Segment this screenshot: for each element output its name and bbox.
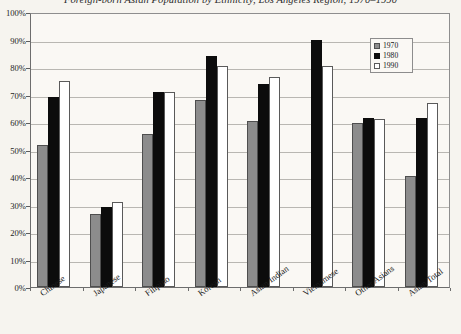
bar-other-asians-1990 — [374, 119, 385, 287]
bar-asian-indian-1970 — [247, 121, 258, 287]
bar-vietnamese-1990 — [322, 66, 333, 287]
legend-item-1970: 1970 — [374, 41, 409, 50]
y-axis-tick-label: 70% — [10, 91, 26, 101]
bar-asian-total-1980 — [416, 118, 427, 287]
y-axis-tick-label: 80% — [10, 63, 26, 73]
bar-asian-indian-1980 — [258, 84, 269, 288]
y-axis: 100%90%80%70%60%50%40%30%20%10%0% — [0, 13, 30, 288]
legend-label-1980: 1980 — [383, 52, 398, 60]
bar-korean-1990 — [217, 66, 228, 287]
y-axis-tick-label: 30% — [10, 201, 26, 211]
legend-swatch-1990 — [374, 63, 380, 69]
bar-chinese-1980 — [48, 97, 59, 287]
y-axis-tick-label: 90% — [10, 36, 26, 46]
bar-group — [189, 14, 242, 287]
x-axis-labels: ChineseJapaneseFilipinoKoreanAsian India… — [30, 290, 450, 334]
bar-other-asians-1970 — [352, 123, 363, 287]
bar-group — [294, 14, 347, 287]
x-axis-tick-mark — [293, 288, 294, 291]
x-axis-tick-mark — [83, 288, 84, 291]
bar-filipino-1990 — [164, 92, 175, 287]
bar-chinese-1990 — [59, 81, 70, 287]
bar-other-asians-1980 — [363, 118, 374, 287]
bar-korean-1970 — [195, 100, 206, 287]
x-axis-tick-mark — [398, 288, 399, 291]
chart-legend: 197019801990 — [370, 38, 413, 73]
legend-item-1980: 1980 — [374, 51, 409, 60]
y-axis-tick-label: 50% — [10, 146, 26, 156]
bar-group — [241, 14, 294, 287]
y-axis-tick-label: 0% — [15, 283, 26, 293]
bar-asian-total-1970 — [405, 176, 416, 287]
x-axis-tick-mark — [135, 288, 136, 291]
x-axis-tick-mark — [188, 288, 189, 291]
chart-container: Foreign-born Asian Population by Ethnici… — [0, 0, 461, 334]
x-axis-tick-mark — [450, 288, 451, 291]
legend-swatch-1970 — [374, 43, 380, 49]
x-axis-tick-mark — [345, 288, 346, 291]
legend-item-1990: 1990 — [374, 61, 409, 70]
y-axis-tick-label: 100% — [6, 8, 26, 18]
y-axis-tick-label: 60% — [10, 118, 26, 128]
bar-filipino-1980 — [153, 92, 164, 287]
bar-filipino-1970 — [142, 134, 153, 287]
y-axis-tick-label: 20% — [10, 228, 26, 238]
legend-label-1970: 1970 — [383, 42, 398, 50]
x-axis-tick-mark — [240, 288, 241, 291]
bar-asian-total-1990 — [427, 103, 438, 287]
bar-korean-1980 — [206, 56, 217, 287]
bar-vietnamese-1980 — [311, 40, 322, 288]
y-axis-tick-label: 10% — [10, 256, 26, 266]
bar-japanese-1970 — [90, 214, 101, 287]
chart-title: Foreign-born Asian Population by Ethnici… — [0, 0, 461, 5]
bar-group — [31, 14, 84, 287]
legend-label-1990: 1990 — [383, 62, 398, 70]
legend-swatch-1980 — [374, 53, 380, 59]
x-axis-tick-mark — [30, 288, 31, 291]
bar-group — [84, 14, 137, 287]
y-axis-tick-label: 40% — [10, 173, 26, 183]
bar-chinese-1970 — [37, 145, 48, 287]
bar-asian-indian-1990 — [269, 77, 280, 287]
bar-group — [136, 14, 189, 287]
